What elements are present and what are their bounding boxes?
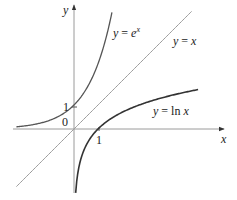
origin-label: 0 xyxy=(62,115,68,129)
y-tick-label-1: 1 xyxy=(63,100,69,114)
x-axis-label: x xyxy=(220,132,227,146)
label-identity: y = x xyxy=(172,34,197,48)
function-graph: y x 0 1 1 y = ex y = x y = ln x xyxy=(0,0,237,200)
curve-identity xyxy=(16,11,191,186)
y-axis-label: y xyxy=(62,3,69,17)
x-tick-label-1: 1 xyxy=(96,133,102,147)
label-ln: y = ln x xyxy=(152,104,189,118)
label-exp: y = ex xyxy=(112,25,140,40)
